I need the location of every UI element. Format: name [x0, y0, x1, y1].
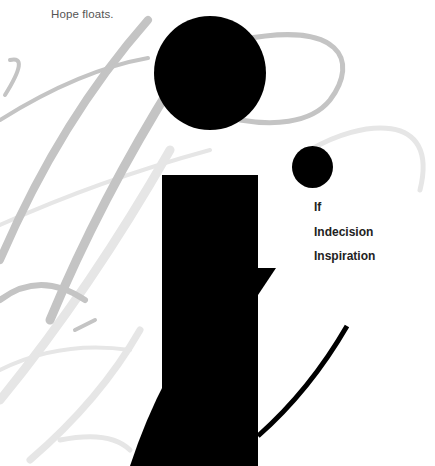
logo-stem	[162, 175, 258, 466]
nav-item-if[interactable]: If	[314, 200, 375, 225]
logo-dot-small	[292, 146, 333, 188]
nav-item-inspiration[interactable]: Inspiration	[314, 249, 375, 274]
logo-dot-large	[154, 16, 266, 130]
tagline: Hope floats.	[51, 8, 114, 20]
nav-menu: If Indecision Inspiration	[314, 200, 375, 274]
nav-item-indecision[interactable]: Indecision	[314, 225, 375, 250]
